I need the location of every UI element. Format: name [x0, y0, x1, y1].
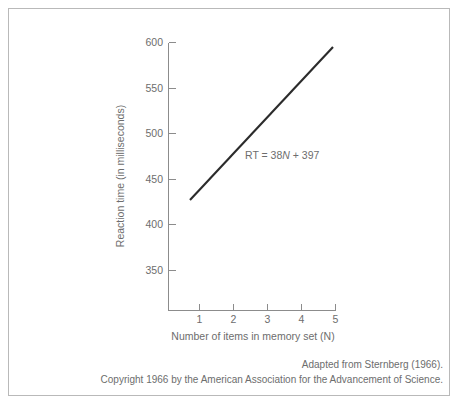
caption-line-2: Copyright 1966 by the American Associati… — [101, 374, 443, 385]
chart-canvas: 600 550 500 450 400 350 1 2 3 4 5 Number… — [0, 0, 463, 409]
x-axis-ticks — [200, 304, 336, 311]
y-tick-label: 500 — [145, 127, 163, 139]
x-tick-label: 1 — [197, 313, 203, 325]
y-axis-ticks — [169, 43, 176, 271]
y-axis-title: Reaction time (in milliseconds) — [114, 105, 126, 247]
equation-prefix: RT = 38 — [245, 149, 282, 161]
y-tick-label: 600 — [145, 36, 163, 48]
x-tick-label: 5 — [333, 313, 339, 325]
axis-spines — [169, 43, 336, 311]
x-tick-label: 4 — [299, 313, 305, 325]
figure-page: 600 550 500 450 400 350 1 2 3 4 5 Number… — [0, 0, 463, 409]
y-tick-label: 400 — [145, 218, 163, 230]
regression-equation-label: RT = 38N + 397 — [245, 149, 320, 161]
caption-line-1: Adapted from Sternberg (1966). — [302, 359, 443, 370]
regression-line — [190, 47, 333, 200]
x-axis-title: Number of items in memory set (N) — [171, 330, 334, 342]
equation-suffix: + 397 — [290, 149, 320, 161]
y-tick-label: 350 — [145, 264, 163, 276]
x-tick-label: 3 — [265, 313, 271, 325]
y-tick-label: 450 — [145, 173, 163, 185]
y-tick-labels: 600 550 500 450 400 350 — [145, 36, 163, 276]
y-tick-label: 550 — [145, 82, 163, 94]
x-tick-labels: 1 2 3 4 5 — [197, 313, 339, 325]
x-tick-label: 2 — [231, 313, 237, 325]
